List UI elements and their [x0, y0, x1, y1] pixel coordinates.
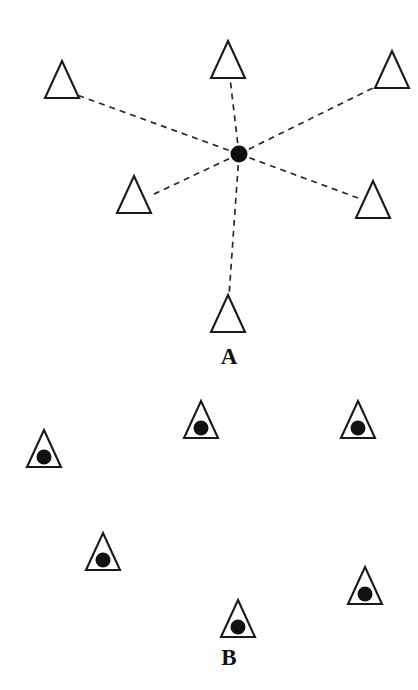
triangle-node-mid-right-dot	[358, 587, 373, 602]
panel-b: B	[27, 401, 382, 670]
triangle-mid-right[interactable]	[356, 181, 390, 218]
triangle-node-top-center[interactable]	[184, 401, 218, 438]
spoke-hub-to-top-center	[230, 78, 239, 154]
panel-b-nodes	[27, 401, 382, 637]
triangle-top-center[interactable]	[211, 41, 245, 78]
triangle-node-mid-right[interactable]	[348, 567, 382, 604]
triangle-node-bottom[interactable]	[221, 600, 255, 637]
triangle-top-right[interactable]	[375, 51, 409, 88]
triangle-node-bottom-dot	[231, 620, 246, 635]
triangle-node-mid-left[interactable]	[86, 533, 120, 570]
triangle-top-left[interactable]	[45, 61, 79, 98]
figure-root: A	[0, 0, 418, 690]
triangle-node-left-dot	[37, 450, 52, 465]
triangle-node-left[interactable]	[27, 430, 61, 467]
spoke-hub-to-mid-left	[150, 154, 239, 196]
spoke-hub-to-bottom	[229, 154, 239, 296]
triangle-node-mid-left-dot	[96, 553, 111, 568]
spoke-hub-to-top-right	[239, 86, 377, 154]
panel-label-a: A	[221, 344, 238, 369]
triangle-bottom[interactable]	[211, 295, 245, 332]
triangle-node-top-right[interactable]	[341, 401, 375, 438]
spoke-hub-to-top-left	[77, 95, 239, 154]
triangle-mid-left[interactable]	[117, 176, 151, 213]
panel-a: A	[45, 41, 409, 369]
figure-canvas: A	[0, 0, 418, 690]
center-hub-dot[interactable]	[231, 146, 248, 163]
triangle-node-top-right-dot	[351, 421, 366, 436]
panel-a-edges	[77, 78, 377, 296]
panel-label-b: B	[221, 645, 236, 670]
spoke-hub-to-mid-right	[239, 154, 358, 198]
triangle-node-top-center-dot	[194, 421, 209, 436]
panel-a-nodes	[45, 41, 409, 332]
